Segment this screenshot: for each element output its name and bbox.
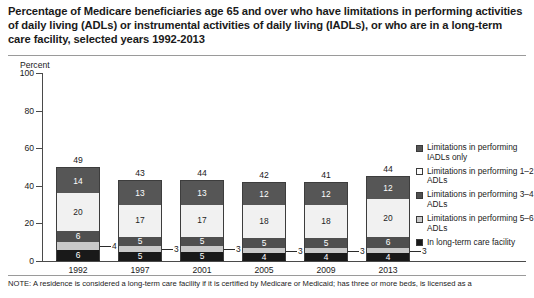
bar-segment: 18 (242, 205, 286, 239)
legend-item: Limitations in performing 1–2 ADLs (416, 167, 534, 186)
callout-value: 3 (236, 245, 241, 253)
segment-value: 18 (259, 217, 268, 225)
segment-value: 6 (386, 238, 391, 246)
segment-value: 5 (200, 237, 205, 245)
y-axis-tick-label: 20 (4, 219, 34, 227)
segment-value: 6 (76, 232, 81, 240)
bar-segment (56, 242, 100, 250)
bar-2013: 462012 (366, 176, 410, 261)
legend-label: In long-term care facility (427, 238, 515, 248)
bar-total-label: 42 (242, 170, 286, 180)
bar-segment: 14 (56, 167, 100, 193)
title-divider (8, 55, 526, 56)
callout-value: 3 (422, 247, 427, 255)
segment-value: 4 (262, 253, 267, 261)
y-axis-tick (36, 111, 43, 112)
legend-label: Limitations in performing IADLs only (427, 143, 534, 162)
segment-value: 5 (324, 239, 329, 247)
bar-segment: 13 (180, 180, 224, 204)
bar-total-label: 49 (56, 155, 100, 165)
legend-swatch-icon (416, 168, 423, 175)
bar-segment: 6 (366, 237, 410, 248)
y-axis-tick (36, 186, 43, 187)
y-axis-tick-label: 60 (4, 144, 34, 152)
bar-segment: 6 (56, 250, 100, 261)
segment-value: 12 (383, 184, 392, 192)
legend-label: Limitations in performing 5–6 ADLs (427, 214, 534, 233)
bar-segment: 5 (180, 252, 224, 261)
x-axis-label: 2005 (234, 265, 294, 275)
segment-value: 4 (386, 253, 391, 261)
bar-segment: 5 (242, 238, 286, 247)
y-axis-labels: 020406080100 (0, 68, 34, 268)
y-axis-tick-label: 100 (4, 69, 34, 77)
bar-segment: 5 (118, 237, 162, 246)
segment-value: 12 (321, 190, 330, 198)
bar-segment: 13 (118, 180, 162, 204)
legend-swatch-icon (416, 145, 423, 152)
callout-line (162, 249, 173, 250)
bar-segment: 20 (56, 193, 100, 231)
bar-2005: 451812 (242, 182, 286, 261)
y-axis-tick-label: 40 (4, 182, 34, 190)
x-axis-label: 2013 (358, 265, 418, 275)
x-axis-line (42, 261, 526, 262)
bar-segment: 20 (366, 199, 410, 237)
segment-value: 5 (138, 237, 143, 245)
legend-item: Limitations in performing IADLs only (416, 143, 534, 162)
segment-value: 13 (197, 189, 206, 197)
segment-value: 18 (321, 217, 330, 225)
y-axis-tick-label: 80 (4, 107, 34, 115)
callout-line (224, 249, 235, 250)
bar-1992: 662014 (56, 167, 100, 261)
bar-segment: 5 (180, 237, 224, 246)
bar-segment: 5 (304, 238, 348, 247)
bar-segment: 12 (304, 182, 348, 205)
callout-line (100, 246, 111, 247)
legend-swatch-icon (416, 192, 423, 199)
segment-value: 4 (324, 253, 329, 261)
bar-2001: 551713 (180, 180, 224, 261)
callout-value: 3 (360, 247, 365, 255)
segment-value: 12 (259, 190, 268, 198)
callout-line (410, 251, 421, 252)
legend-item: In long-term care facility (416, 238, 534, 248)
segment-value: 20 (73, 208, 82, 216)
legend-item: Limitations in performing 3–4 ADLs (416, 190, 534, 209)
bar-segment: 18 (304, 205, 348, 239)
chart-page: Percentage of Medicare beneficiaries age… (0, 0, 534, 298)
x-axis-label: 1997 (110, 265, 170, 275)
bar-segment: 4 (366, 253, 410, 261)
bar-segment: 6 (56, 231, 100, 242)
callout-line (286, 251, 297, 252)
y-axis-tick (36, 148, 43, 149)
x-axis-label: 2001 (172, 265, 232, 275)
x-axis-label: 1992 (48, 265, 108, 275)
bar-total-label: 44 (366, 164, 410, 174)
bar-segment: 12 (242, 182, 286, 205)
plot-area: 662014551713551713451812451812462012 (42, 73, 410, 261)
bar-total-label: 43 (118, 168, 162, 178)
callout-value: 3 (298, 247, 303, 255)
segment-value: 5 (200, 252, 205, 260)
bar-segment: 4 (242, 253, 286, 261)
bar-segment: 5 (118, 252, 162, 261)
note-divider (8, 275, 526, 276)
segment-value: 14 (73, 177, 82, 185)
segment-value: 20 (383, 214, 392, 222)
bar-2009: 451812 (304, 182, 348, 261)
callout-value: 4 (112, 242, 117, 250)
bar-total-label: 41 (304, 170, 348, 180)
x-axis-label: 2009 (296, 265, 356, 275)
segment-value: 13 (135, 189, 144, 197)
legend-swatch-icon (416, 216, 423, 223)
y-axis-tick (36, 223, 43, 224)
legend-label: Limitations in performing 3–4 ADLs (427, 190, 534, 209)
bar-segment: 17 (180, 205, 224, 237)
y-axis-tick (36, 261, 43, 262)
bar-1997: 551713 (118, 180, 162, 261)
segment-value: 5 (138, 252, 143, 260)
bar-segment: 4 (304, 253, 348, 261)
legend-label: Limitations in performing 1–2 ADLs (427, 167, 534, 186)
legend-item: Limitations in performing 5–6 ADLs (416, 214, 534, 233)
